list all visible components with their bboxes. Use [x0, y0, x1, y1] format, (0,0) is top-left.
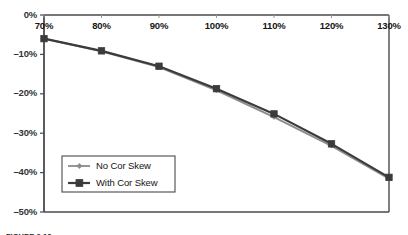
y-axis-tick-label: –10%: [14, 48, 38, 59]
x-axis-tick-label: 70%: [35, 20, 54, 31]
x-axis-tick-label: 120%: [320, 20, 344, 31]
figure-caption-text: FIGURE 2-13: [6, 232, 51, 235]
data-point-marker: [213, 85, 219, 91]
y-axis-tick-label: –30%: [14, 127, 38, 138]
y-axis-tick-label: –40%: [14, 166, 38, 177]
x-axis-tick-label: 100%: [205, 20, 229, 31]
y-axis-tick-label: –50%: [14, 206, 38, 217]
x-axis-tick-label: 110%: [263, 20, 287, 31]
data-point-marker: [328, 141, 334, 147]
data-point-marker: [41, 35, 47, 41]
y-axis-tick-label: 0%: [24, 9, 38, 20]
y-axis-tick-label: –20%: [14, 87, 38, 98]
data-point-marker: [271, 111, 277, 117]
legend-label-2: With Cor Skew: [96, 177, 158, 188]
figure-caption: FIGURE 2-13: [6, 225, 306, 235]
data-point-marker: [386, 174, 392, 180]
chart-figure: 0%–10%–20%–30%–40%–50%70%80%90%100%110%1…: [0, 0, 408, 235]
data-point-marker: [98, 48, 104, 54]
data-point-marker: [156, 63, 162, 69]
line-chart: 0%–10%–20%–30%–40%–50%70%80%90%100%110%1…: [0, 0, 408, 235]
x-axis-tick-label: 130%: [377, 20, 401, 31]
legend-label-1: No Cor Skew: [96, 160, 151, 171]
x-axis-tick-label: 80%: [92, 20, 111, 31]
legend-marker-2: [76, 180, 83, 187]
x-axis-tick-label: 90%: [150, 20, 169, 31]
